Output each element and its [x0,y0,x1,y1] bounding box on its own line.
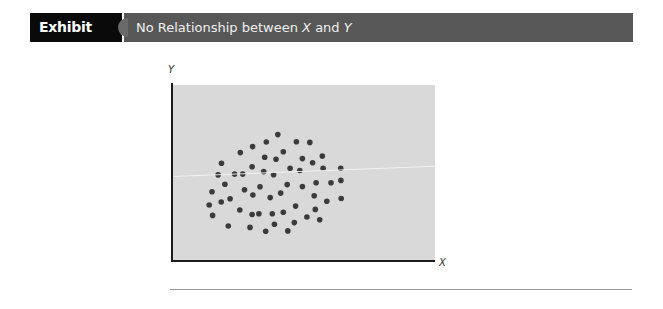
data-point [324,199,330,205]
title-middle: and [311,20,344,35]
data-point [294,139,300,145]
data-point [219,161,225,167]
data-point [238,150,244,156]
exhibit-header: Exhibit 12.1 No Relationship between X a… [30,13,633,42]
data-point [237,207,243,213]
data-point [210,213,216,219]
data-point [209,189,215,195]
data-point [250,144,256,150]
data-point [226,223,232,229]
data-point [292,220,298,226]
data-point [227,196,233,202]
data-point [300,184,306,190]
data-point [272,221,278,227]
data-point [284,182,290,188]
data-point [313,207,319,213]
data-point [287,165,293,171]
data-point [256,211,262,217]
data-point [264,139,270,145]
data-point [285,228,291,234]
data-point [242,187,248,193]
data-point [249,212,255,218]
y-axis-line [171,83,173,262]
title-var-y: Y [344,20,352,35]
data-point [263,229,269,235]
data-point [257,184,263,190]
data-point [304,214,310,220]
data-point [250,192,256,198]
data-point [293,203,299,209]
footer-divider [170,289,632,290]
title-var-x: X [302,20,311,35]
data-point [249,164,255,170]
title-prefix: No Relationship between [136,20,302,35]
data-point [313,180,319,186]
data-point [247,225,253,231]
data-point [281,149,287,155]
x-axis-line [171,260,435,262]
data-point [273,157,279,163]
data-point [300,156,306,162]
data-point [307,140,313,146]
data-point [338,196,344,202]
data-point [278,190,284,196]
data-point [267,195,273,201]
scatter-points [173,85,435,261]
y-axis-label: Y [168,64,174,75]
data-point [338,178,344,184]
data-point [218,199,224,205]
x-axis-label: X [439,257,446,268]
exhibit-title: No Relationship between X and Y [124,13,633,42]
data-point [281,209,287,215]
data-point [270,211,276,217]
data-point [310,160,316,166]
data-point [311,193,317,199]
data-point [222,182,228,188]
data-point [206,202,212,208]
data-point [317,217,323,223]
data-point [320,153,326,159]
data-point [275,132,281,138]
data-point [262,154,268,160]
data-point [328,180,334,186]
exhibit-number: Exhibit 12.1 [30,13,122,42]
